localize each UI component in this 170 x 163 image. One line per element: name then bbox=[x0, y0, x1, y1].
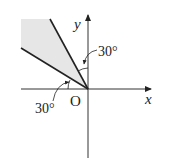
angle-arc-upper bbox=[78, 68, 88, 71]
x-axis-label: x bbox=[144, 91, 152, 107]
coordinate-diagram: y x O 30° 30° bbox=[0, 0, 170, 163]
origin-label: O bbox=[70, 93, 81, 109]
angle-label-lower: 30° bbox=[35, 101, 55, 116]
y-axis-label: y bbox=[72, 16, 81, 32]
leader-lower bbox=[53, 82, 69, 101]
angle-arc-lower bbox=[68, 80, 70, 89]
leader-upper bbox=[84, 50, 97, 64]
angle-label-upper: 30° bbox=[98, 44, 118, 59]
